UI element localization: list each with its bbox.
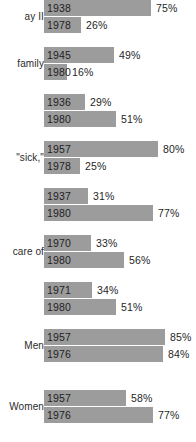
bar-year-label: 1978 — [47, 159, 71, 173]
bar-row: 198016% — [44, 64, 196, 80]
bar-year-label: 1978 — [47, 18, 71, 32]
bar-row: 195780% — [44, 141, 196, 157]
horizontal-bar-chart: ay II193875%197826%family194549%198016%1… — [0, 0, 196, 442]
bar-year-label: 1945 — [47, 48, 71, 62]
bar-group: "sick,"195780%197825% — [0, 141, 196, 174]
group-label: family — [17, 58, 44, 69]
bar-row: 194549% — [44, 47, 196, 63]
group-label: Women — [9, 401, 44, 412]
bar-group: Men195785%197684% — [0, 329, 196, 362]
bar-row: 193875% — [44, 0, 196, 16]
bar-row: 197134% — [44, 282, 196, 298]
bar-value-label: 26% — [86, 18, 108, 32]
bar-value-label: 77% — [158, 408, 180, 422]
bar-value-label: 75% — [156, 1, 178, 15]
bar-year-label: 1957 — [47, 391, 71, 405]
bar-value-label: 51% — [121, 300, 143, 314]
bar-group: 197134%198051% — [0, 282, 196, 315]
bar-year-label: 1976 — [47, 408, 71, 422]
bar-group: care of197033%198056% — [0, 235, 196, 268]
bar-row: 197033% — [44, 235, 196, 251]
bar-row: 198051% — [44, 111, 196, 127]
bar-value-label: 29% — [90, 95, 112, 109]
bar-year-label: 1937 — [47, 189, 71, 203]
bar-value-label: 34% — [97, 283, 119, 297]
bar-value-label: 56% — [129, 253, 151, 267]
bar-year-label: 1976 — [47, 347, 71, 361]
bar-value-label: 33% — [96, 236, 118, 250]
bar-row: 198051% — [44, 299, 196, 315]
bar-value-label: 49% — [119, 48, 141, 62]
bar-value-label: 31% — [93, 189, 115, 203]
bar-year-label: 1970 — [47, 236, 71, 250]
bar-year-label: 1980 — [47, 253, 71, 267]
bar-year-label: 1980 — [47, 206, 71, 220]
bar-value-label: 77% — [158, 206, 180, 220]
group-label: ay II — [25, 11, 44, 22]
bar-row: 193629% — [44, 94, 196, 110]
group-label: "sick," — [16, 152, 44, 163]
bar-value-label: 85% — [170, 330, 192, 344]
bar-group: family194549%198016% — [0, 47, 196, 80]
bar-group: 193629%198051% — [0, 94, 196, 127]
bar-value-label: 80% — [163, 142, 185, 156]
bar-year-label: 1957 — [47, 330, 71, 344]
bar-row: 197684% — [44, 346, 196, 362]
bar-row: 193731% — [44, 188, 196, 204]
bar-row: 195758% — [44, 390, 196, 406]
bar-year-label: 1957 — [47, 142, 71, 156]
bar-year-label: 1938 — [47, 1, 71, 15]
bar-year-label: 1936 — [47, 95, 71, 109]
bar-row: 195785% — [44, 329, 196, 345]
bar-value-label: 58% — [131, 391, 153, 405]
group-label: care of — [13, 246, 44, 257]
bar-year-label: 1980 — [47, 65, 71, 79]
bar-value-label: 16% — [72, 65, 94, 79]
bar-row: 198077% — [44, 205, 196, 221]
group-label: Men — [24, 340, 44, 351]
bar-year-label: 1980 — [47, 300, 71, 314]
bar-row: 198056% — [44, 252, 196, 268]
bar-group: 193731%198077% — [0, 188, 196, 221]
bar-group: Women195758%197677% — [0, 390, 196, 423]
bar-group: ay II193875%197826% — [0, 0, 196, 33]
bar-row: 197677% — [44, 407, 196, 423]
bar-value-label: 25% — [85, 159, 107, 173]
bar-row: 197826% — [44, 17, 196, 33]
bar-year-label: 1980 — [47, 112, 71, 126]
bar-value-label: 51% — [121, 112, 143, 126]
bar-row: 197825% — [44, 158, 196, 174]
bar-value-label: 84% — [168, 347, 190, 361]
bar-year-label: 1971 — [47, 283, 71, 297]
